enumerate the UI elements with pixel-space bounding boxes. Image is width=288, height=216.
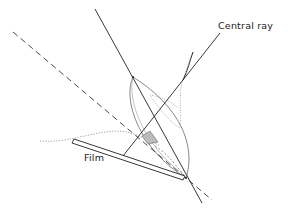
- film-label: Film: [84, 152, 104, 163]
- central-ray-label: Central ray: [218, 20, 273, 31]
- palate-mass: [142, 131, 158, 144]
- diagram-svg: [0, 0, 288, 216]
- tooth-inner-outline: [132, 77, 184, 175]
- soft-tissue-upper: [150, 52, 193, 128]
- soft-tissue-edge: [183, 52, 193, 80]
- central-ray-line: [123, 33, 220, 156]
- tooth-long-axis-line: [95, 9, 202, 203]
- apex-point: [132, 76, 134, 78]
- crown-point: [185, 177, 187, 179]
